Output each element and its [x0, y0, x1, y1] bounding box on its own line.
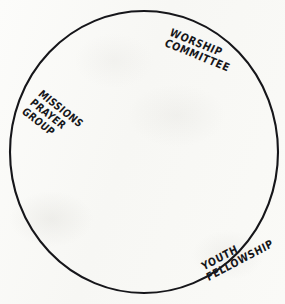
diagram-canvas: WORSHIP COMMITTEE MISSIONS PRAYER GROUP … — [0, 0, 285, 304]
